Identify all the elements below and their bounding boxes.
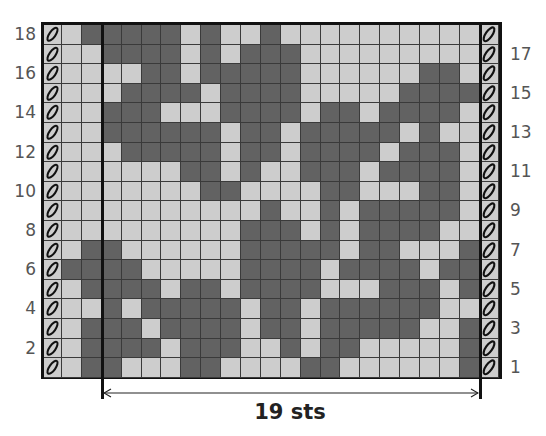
- light-stitch-cell: [460, 25, 480, 45]
- light-stitch-cell: [221, 123, 241, 143]
- dark-stitch-cell: [241, 162, 261, 182]
- dark-stitch-cell: [340, 103, 360, 123]
- dark-stitch-cell: [281, 339, 301, 359]
- row-number-label: 17: [510, 46, 540, 63]
- light-stitch-cell: [122, 162, 142, 182]
- light-stitch-cell: [62, 221, 82, 241]
- row-number-label: 12: [6, 144, 36, 161]
- edge-slip-stitch-icon: [44, 123, 62, 143]
- light-stitch-cell: [420, 339, 440, 359]
- light-stitch-cell: [161, 182, 181, 202]
- light-stitch-cell: [181, 201, 201, 221]
- edge-slip-stitch-icon: [44, 358, 62, 378]
- dark-stitch-cell: [161, 143, 181, 163]
- light-stitch-cell: [221, 221, 241, 241]
- light-stitch-cell: [161, 221, 181, 241]
- light-stitch-cell: [82, 64, 102, 84]
- light-stitch-cell: [62, 299, 82, 319]
- light-stitch-cell: [82, 103, 102, 123]
- dark-stitch-cell: [261, 64, 281, 84]
- light-stitch-cell: [62, 182, 82, 202]
- light-stitch-cell: [241, 299, 261, 319]
- light-stitch-cell: [440, 221, 460, 241]
- dark-stitch-cell: [261, 221, 281, 241]
- light-stitch-cell: [460, 299, 480, 319]
- dark-stitch-cell: [261, 103, 281, 123]
- dark-stitch-cell: [201, 25, 221, 45]
- light-stitch-cell: [181, 25, 201, 45]
- dark-stitch-cell: [400, 162, 420, 182]
- dark-stitch-cell: [161, 84, 181, 104]
- light-stitch-cell: [181, 103, 201, 123]
- dark-stitch-cell: [281, 241, 301, 261]
- light-stitch-cell: [301, 201, 321, 221]
- light-stitch-cell: [301, 299, 321, 319]
- dark-stitch-cell: [340, 162, 360, 182]
- light-stitch-cell: [241, 319, 261, 339]
- dark-stitch-cell: [221, 64, 241, 84]
- chart-grid: [44, 25, 499, 378]
- dark-stitch-cell: [82, 25, 102, 45]
- dark-stitch-cell: [380, 103, 400, 123]
- dark-stitch-cell: [122, 123, 142, 143]
- dark-stitch-cell: [142, 64, 162, 84]
- edge-slip-stitch-icon: [480, 299, 499, 319]
- dark-stitch-cell: [400, 319, 420, 339]
- dark-stitch-cell: [102, 339, 122, 359]
- dark-stitch-cell: [122, 45, 142, 65]
- light-stitch-cell: [281, 201, 301, 221]
- light-stitch-cell: [181, 221, 201, 241]
- dark-stitch-cell: [321, 339, 341, 359]
- light-stitch-cell: [340, 64, 360, 84]
- edge-slip-stitch-icon: [480, 201, 499, 221]
- dark-stitch-cell: [201, 182, 221, 202]
- light-stitch-cell: [440, 358, 460, 378]
- dark-stitch-cell: [281, 221, 301, 241]
- light-stitch-cell: [142, 241, 162, 261]
- light-stitch-cell: [62, 241, 82, 261]
- dark-stitch-cell: [360, 201, 380, 221]
- dark-stitch-cell: [380, 123, 400, 143]
- dark-stitch-cell: [201, 162, 221, 182]
- dark-stitch-cell: [380, 201, 400, 221]
- light-stitch-cell: [122, 221, 142, 241]
- edge-slip-stitch-icon: [480, 280, 499, 300]
- light-stitch-cell: [400, 123, 420, 143]
- light-stitch-cell: [420, 45, 440, 65]
- row-number-label: 8: [6, 222, 36, 239]
- light-stitch-cell: [400, 241, 420, 261]
- dark-stitch-cell: [261, 280, 281, 300]
- light-stitch-cell: [62, 103, 82, 123]
- light-stitch-cell: [62, 162, 82, 182]
- light-stitch-cell: [460, 103, 480, 123]
- light-stitch-cell: [380, 64, 400, 84]
- dark-stitch-cell: [420, 182, 440, 202]
- dark-stitch-cell: [261, 84, 281, 104]
- dark-stitch-cell: [420, 162, 440, 182]
- light-stitch-cell: [201, 84, 221, 104]
- row-number-label: 18: [6, 26, 36, 43]
- light-stitch-cell: [181, 45, 201, 65]
- edge-slip-stitch-icon: [44, 241, 62, 261]
- light-stitch-cell: [102, 221, 122, 241]
- light-stitch-cell: [400, 45, 420, 65]
- dark-stitch-cell: [241, 280, 261, 300]
- dark-stitch-cell: [102, 260, 122, 280]
- dark-stitch-cell: [460, 358, 480, 378]
- dark-stitch-cell: [281, 84, 301, 104]
- light-stitch-cell: [380, 182, 400, 202]
- light-stitch-cell: [201, 221, 221, 241]
- light-stitch-cell: [62, 123, 82, 143]
- edge-slip-stitch-icon: [44, 221, 62, 241]
- light-stitch-cell: [460, 143, 480, 163]
- light-stitch-cell: [161, 241, 181, 261]
- dark-stitch-cell: [241, 64, 261, 84]
- light-stitch-cell: [62, 201, 82, 221]
- row-number-label: 16: [6, 65, 36, 82]
- light-stitch-cell: [221, 260, 241, 280]
- light-stitch-cell: [360, 339, 380, 359]
- dark-stitch-cell: [420, 64, 440, 84]
- dark-stitch-cell: [102, 25, 122, 45]
- light-stitch-cell: [201, 201, 221, 221]
- dark-stitch-cell: [181, 299, 201, 319]
